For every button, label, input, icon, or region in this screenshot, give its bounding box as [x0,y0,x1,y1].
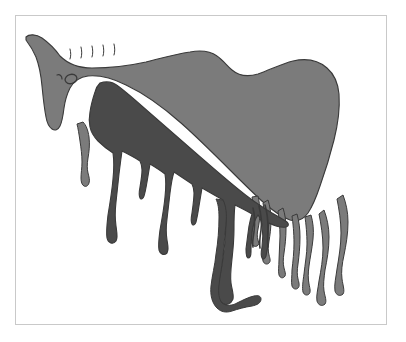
light-body-shape [26,35,339,221]
mane-tick-5 [114,44,115,55]
mane-tick-3 [92,46,93,57]
drip-light-1 [77,122,89,186]
drip-light-5 [317,210,329,305]
artwork-canvas: Two-tone horse figure with paint drips [0,0,406,342]
mane-tick-1 [70,49,71,59]
mane-tick-4 [103,45,104,56]
mane-tick-marks [70,44,115,59]
drip-light-4 [303,215,314,295]
mane-tick-2 [81,47,82,58]
drip-light-3 [292,214,300,289]
drip-light-6 [335,195,348,295]
horse-figure-illustration [0,0,406,342]
